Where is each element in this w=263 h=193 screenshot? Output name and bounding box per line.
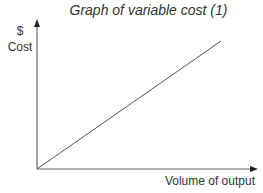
chart-plot	[0, 0, 263, 193]
x-axis-label: Volume of output	[165, 174, 255, 188]
y-axis-arrow-icon	[34, 19, 40, 27]
variable-cost-line	[37, 41, 221, 169]
x-axis-arrow-icon	[250, 166, 258, 172]
